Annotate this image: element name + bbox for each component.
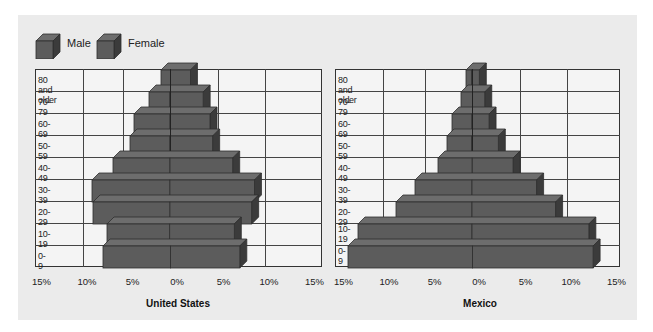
x-tick-label: 15% <box>607 276 626 287</box>
bar-top-face <box>348 239 600 246</box>
bar-top-face <box>130 129 220 136</box>
bar-female-front <box>472 246 593 268</box>
female-cube-icon <box>96 33 122 59</box>
x-tick-label: 5% <box>428 276 442 287</box>
bar-top-face <box>415 173 544 180</box>
bar-top-face <box>438 151 520 158</box>
row-label: 0-9 <box>38 251 45 271</box>
bar-top-face <box>452 107 496 114</box>
x-tick-label: 5% <box>519 276 533 287</box>
bar-top-face <box>447 129 505 136</box>
x-tick-label: 15% <box>32 276 51 287</box>
bar-top-face <box>358 217 596 224</box>
row-label: 30-39 <box>38 185 50 205</box>
x-tick-label: 10% <box>379 276 398 287</box>
row-label: 50-59 <box>338 141 350 161</box>
pyramid-bar-0-9 <box>103 239 247 268</box>
row-label: 40-49 <box>338 163 350 183</box>
bar-top-face <box>149 85 210 92</box>
x-tick-label: 0% <box>170 276 184 287</box>
x-tick-label: 5% <box>217 276 231 287</box>
row-label: 30-39 <box>338 185 350 205</box>
row-label: 10-19 <box>38 229 50 249</box>
legend-label-female: Female <box>128 37 165 49</box>
row-label: 20-29 <box>38 207 50 227</box>
bar-male-front <box>103 246 170 268</box>
chart-title: United States <box>146 298 210 309</box>
row-label: 50-59 <box>38 141 50 161</box>
legend-label-male: Male <box>67 37 91 49</box>
bar-top-face <box>134 107 217 114</box>
x-tick-label: 0% <box>472 276 486 287</box>
pyramid-bar-0-9 <box>348 239 600 268</box>
bar-top-face <box>103 239 247 246</box>
chart-title: Mexico <box>463 298 497 309</box>
x-tick-label: 10% <box>77 276 96 287</box>
bar-top-face <box>107 217 241 224</box>
bar-top-face <box>93 195 259 202</box>
bar-male-front <box>348 246 472 268</box>
bar-female-front <box>170 246 239 268</box>
row-label: 70-79 <box>338 97 350 117</box>
x-tick-label: 10% <box>259 276 278 287</box>
x-tick-label: 15% <box>305 276 324 287</box>
x-tick-label: 5% <box>126 276 140 287</box>
bar-top-face <box>92 173 261 180</box>
row-label: 60-69 <box>338 119 350 139</box>
male-cube-icon <box>35 33 61 59</box>
label-column-divider <box>83 69 84 267</box>
row-label: 40-49 <box>38 163 50 183</box>
row-label: 70-79 <box>38 97 50 117</box>
x-tick-label: 10% <box>561 276 580 287</box>
grid-col-line <box>265 69 266 267</box>
bar-3d-shape <box>348 239 601 269</box>
bar-top-face <box>113 151 240 158</box>
row-label: 0-9 <box>338 246 345 266</box>
x-tick-label: 15% <box>334 276 353 287</box>
bar-top-face <box>396 195 563 202</box>
bar-3d-shape <box>103 239 248 269</box>
row-label: 60-69 <box>38 119 50 139</box>
